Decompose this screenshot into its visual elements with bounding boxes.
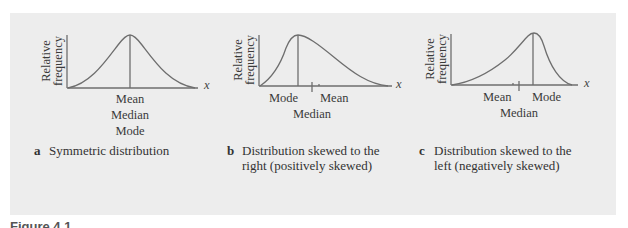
caption-text-c-line1: Distribution skewed to the (419, 143, 572, 158)
chart-c-left-skewed (451, 33, 578, 91)
label-a-mean: Mean (116, 92, 144, 107)
y-axis-label-c: Relative frequency (424, 29, 448, 89)
y-label-line2: frequency (52, 31, 64, 91)
y-axis-label-b: Relative frequency (232, 30, 256, 90)
caption-text-b-line2: right (positively skewed) (227, 158, 380, 173)
label-c-median: Median (500, 106, 538, 121)
caption-text-b-line1: Distribution skewed to the (227, 143, 380, 158)
caption-letter-b: b (227, 143, 234, 158)
caption-b: b Distribution skewed to the right (posi… (227, 143, 380, 173)
label-c-mean: Mean (483, 90, 511, 105)
y-label-line2: frequency (244, 30, 256, 90)
label-b-mode: Mode (269, 91, 298, 106)
x-axis-symbol-b: x (396, 77, 402, 92)
label-b-mean: Mean (320, 91, 348, 106)
chart-b-right-skewed (259, 35, 392, 92)
label-a-mode: Mode (115, 124, 144, 139)
caption-c: c Distribution skewed to the left (negat… (419, 143, 572, 173)
label-c-mode: Mode (532, 90, 561, 105)
chart-a-symmetric (67, 35, 198, 88)
x-axis-symbol-a: x (204, 78, 210, 93)
caption-a: a Symmetric distribution (34, 143, 169, 158)
y-axis-label-a: Relative frequency (40, 31, 64, 91)
figure-number: Figure 4.1 (10, 219, 71, 228)
y-label-line2: frequency (436, 29, 448, 89)
caption-letter-a: a (34, 143, 41, 158)
x-axis-symbol-c: x (584, 76, 590, 91)
caption-text-a: Symmetric distribution (34, 143, 169, 158)
caption-text-c-line2: left (negatively skewed) (419, 158, 572, 173)
label-a-median: Median (111, 108, 149, 123)
label-b-median: Median (293, 107, 331, 122)
caption-letter-c: c (419, 143, 425, 158)
